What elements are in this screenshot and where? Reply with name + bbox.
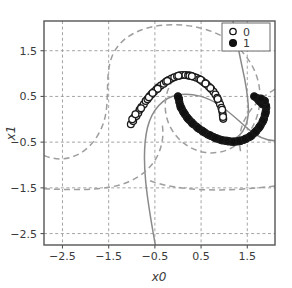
data-point-class-0 — [214, 96, 221, 103]
data-point-class-1 — [262, 110, 269, 117]
data-point-class-0 — [138, 105, 145, 112]
y-tick-label: −1.5 — [10, 182, 37, 195]
data-point-class-0 — [202, 80, 209, 87]
data-point-class-0 — [219, 106, 226, 113]
data-point-class-0 — [149, 90, 156, 97]
data-point-class-1 — [258, 95, 265, 102]
x-tick-label: 1.5 — [239, 250, 257, 263]
x-tick-label: 0.5 — [192, 250, 210, 263]
data-point-class-0 — [132, 111, 139, 118]
x-axis-title: x0 — [151, 270, 167, 284]
y-tick-label: 1.5 — [20, 45, 38, 58]
y-tick-label: −2.5 — [10, 228, 37, 241]
y-axis-title: x1 — [4, 126, 18, 142]
x-tick-label: −2.5 — [49, 250, 76, 263]
data-point-class-0 — [175, 72, 182, 79]
y-tick-label: 0.5 — [20, 90, 38, 103]
data-point-class-0 — [220, 114, 227, 121]
scatter-plot-svg: −2.5−1.5−0.50.51.5 1.50.5−0.5−1.5−2.5 x0… — [0, 0, 292, 288]
data-point-class-1 — [251, 93, 258, 100]
x-tick-label: −1.5 — [95, 250, 122, 263]
chart-figure: −2.5−1.5−0.50.51.5 1.50.5−0.5−1.5−2.5 x0… — [0, 0, 292, 288]
data-point-class-0 — [188, 73, 195, 80]
data-point-class-0 — [164, 77, 171, 84]
legend-label-1: 1 — [243, 37, 250, 50]
data-point-class-1 — [175, 94, 182, 101]
legend[interactable]: 0 1 — [222, 23, 270, 51]
x-tick-label: −0.5 — [142, 250, 169, 263]
legend-marker-open-circle — [230, 28, 236, 34]
legend-marker-filled-circle — [230, 40, 237, 47]
data-point-class-1 — [260, 117, 267, 124]
